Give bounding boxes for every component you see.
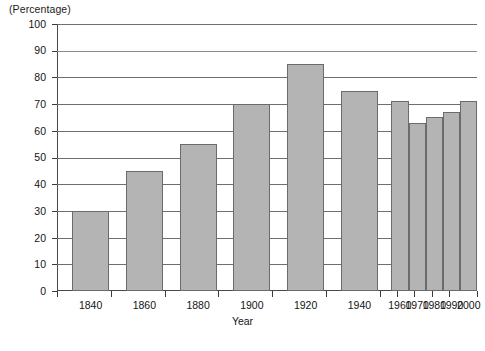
x-tick-mark <box>449 291 450 297</box>
x-tick-mark <box>165 291 166 297</box>
x-tick-mark <box>111 291 112 297</box>
plot-area <box>57 24 477 291</box>
x-axis-ticks <box>57 291 477 299</box>
x-tick-mark <box>414 291 415 297</box>
x-axis-tick-labels: 1840186018801900192019401960197019801990… <box>0 299 485 315</box>
x-tick-mark <box>397 291 398 297</box>
x-tick-mark <box>218 291 219 297</box>
bar-2000 <box>460 101 477 291</box>
y-tick-label: 70 <box>20 99 46 109</box>
x-axis-title: Year <box>0 315 485 327</box>
x-tick-mark <box>57 291 58 297</box>
bar-1990 <box>443 112 460 291</box>
y-tick-label: 90 <box>20 45 46 55</box>
bar-1940 <box>341 91 378 291</box>
y-tick-label: 80 <box>20 72 46 82</box>
x-tick-mark <box>477 291 478 297</box>
bar-1860 <box>126 171 163 291</box>
y-tick-label: 60 <box>20 126 46 136</box>
y-tick-label: 100 <box>20 19 46 29</box>
x-tick-label-1840: 1840 <box>74 299 108 311</box>
bar-1840 <box>72 211 109 291</box>
bar-1880 <box>180 144 217 291</box>
chart-page: (Percentage) 100 90 80 70 60 50 40 30 20… <box>0 0 485 351</box>
bar-1980 <box>426 117 443 291</box>
bar-1920 <box>287 64 324 291</box>
x-tick-mark <box>272 291 273 297</box>
y-tick-label: 50 <box>20 152 46 162</box>
x-tick-label-1860: 1860 <box>127 299 161 311</box>
y-tick-label: 30 <box>20 206 46 216</box>
x-tick-label-1940: 1940 <box>342 299 376 311</box>
y-tick-label: 10 <box>20 259 46 269</box>
y-tick-label: 0 <box>20 286 46 296</box>
y-tick-label: 40 <box>20 179 46 189</box>
x-tick-label-1900: 1900 <box>235 299 269 311</box>
bar-1970 <box>409 123 426 291</box>
x-tick-label-1880: 1880 <box>181 299 215 311</box>
bar-1900 <box>233 104 270 291</box>
x-tick-mark <box>432 291 433 297</box>
bar-1960 <box>391 101 408 291</box>
x-tick-mark <box>380 291 381 297</box>
x-tick-mark <box>326 291 327 297</box>
bar-series <box>57 24 477 291</box>
y-tick-label: 20 <box>20 233 46 243</box>
x-tick-label-2000: 2000 <box>452 299 485 311</box>
x-tick-label-1920: 1920 <box>289 299 323 311</box>
